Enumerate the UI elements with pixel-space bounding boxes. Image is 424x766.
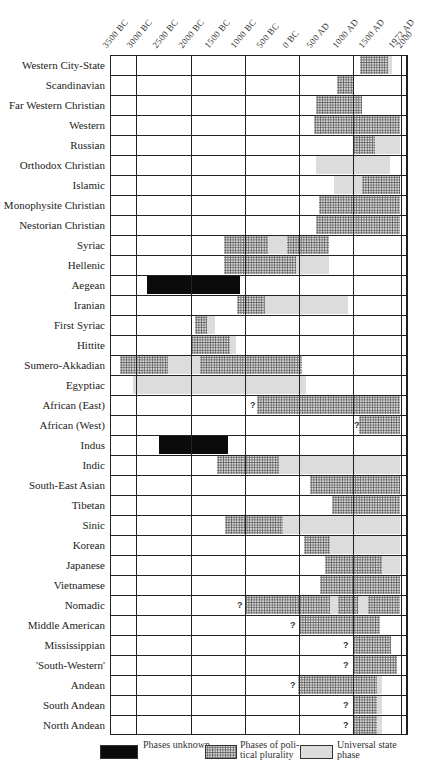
row-label: Nomadic	[65, 595, 105, 615]
horizontal-gridline	[110, 375, 407, 376]
horizontal-gridline	[110, 315, 407, 316]
horizontal-gridline	[110, 355, 407, 356]
horizontal-gridline	[110, 175, 407, 176]
row-label: Western	[69, 115, 105, 135]
row-label: South-East Asian	[29, 475, 105, 495]
horizontal-gridline	[110, 215, 407, 216]
x-tick-label: 500 AD	[304, 21, 331, 50]
horizontal-gridline	[110, 555, 407, 556]
row-label: Andean	[71, 675, 105, 695]
legend-label-universal-state: Universal state phase	[337, 740, 407, 760]
horizontal-gridline	[110, 195, 407, 196]
x-tick-label: 2500 BC	[150, 17, 180, 50]
row-label: Far Western Christian	[9, 95, 105, 115]
row-label: South Andean	[43, 695, 105, 715]
horizontal-gridline	[110, 655, 407, 656]
legend-swatch-universal-state	[300, 745, 333, 759]
row-label: Indus	[81, 435, 105, 455]
row-label: Scandinavian	[46, 75, 105, 95]
legend-label-phases-unknown: Phases unknown	[143, 740, 213, 750]
horizontal-gridline	[110, 475, 407, 476]
row-label: Egyptiac	[66, 375, 105, 395]
row-label: North Andean	[43, 715, 105, 735]
row-label: Orthodox Christian	[20, 155, 105, 175]
horizontal-gridline	[110, 415, 407, 416]
horizontal-gridline	[110, 235, 407, 236]
vertical-gridline	[407, 55, 408, 735]
horizontal-gridline	[110, 675, 407, 676]
horizontal-gridline	[110, 335, 407, 336]
horizontal-gridline	[110, 715, 407, 716]
x-tick-label: 1000 BC	[228, 17, 258, 50]
horizontal-gridline	[110, 575, 407, 576]
row-label: Monophysite Christian	[4, 195, 105, 215]
x-tick-label: 1000 AD	[330, 17, 360, 50]
row-label: First Syriac	[54, 315, 105, 335]
legend-swatch-phases-unknown	[100, 745, 138, 759]
x-tick-label: 2000 BC	[176, 17, 206, 50]
horizontal-gridline	[110, 95, 407, 96]
horizontal-gridline	[110, 295, 407, 296]
horizontal-gridline	[110, 255, 407, 256]
row-label: African (East)	[42, 395, 105, 415]
row-label: Iranian	[74, 295, 105, 315]
row-label: Sinic	[82, 515, 105, 535]
row-label: Indic	[82, 455, 105, 475]
row-label: Russian	[70, 135, 105, 155]
row-label: Western City-State	[22, 55, 105, 75]
row-label: Islamic	[73, 175, 105, 195]
horizontal-gridline	[110, 135, 407, 136]
x-tick-label: 0 BC	[280, 28, 300, 50]
horizontal-gridline	[110, 155, 407, 156]
row-label: Vietnamese	[54, 575, 105, 595]
x-tick-label: 500 BC	[254, 21, 281, 50]
row-label: Middle American	[28, 615, 105, 635]
horizontal-gridline	[110, 275, 407, 276]
horizontal-gridline	[110, 75, 407, 76]
row-label: Hittite	[77, 335, 105, 355]
row-label: Aegean	[71, 275, 105, 295]
horizontal-gridline	[110, 515, 407, 516]
horizontal-gridline	[110, 635, 407, 636]
row-label: Nestorian Christian	[19, 215, 105, 235]
row-label: Syriac	[77, 235, 105, 255]
row-label: African (West)	[40, 415, 105, 435]
legend-swatch-political-plurality	[205, 745, 237, 759]
row-label: Tibetan	[72, 495, 105, 515]
x-tick-label: 1500 BC	[202, 17, 232, 50]
horizontal-gridline	[110, 595, 407, 596]
horizontal-gridline	[110, 435, 407, 436]
horizontal-gridline	[110, 615, 407, 616]
horizontal-gridline	[110, 495, 407, 496]
row-label: Korean	[73, 535, 105, 555]
row-label: 'South-Western'	[36, 655, 105, 675]
row-label: Mississippian	[44, 635, 105, 655]
horizontal-gridline	[110, 695, 407, 696]
horizontal-gridline	[110, 115, 407, 116]
horizontal-gridline	[110, 535, 407, 536]
horizontal-gridline	[110, 395, 407, 396]
row-label: Sumero-Akkadian	[24, 355, 105, 375]
x-tick-label: 1500 AD	[356, 17, 386, 50]
row-label: Hellenic	[68, 255, 105, 275]
row-label: Japanese	[66, 555, 105, 575]
horizontal-gridline	[110, 455, 407, 456]
